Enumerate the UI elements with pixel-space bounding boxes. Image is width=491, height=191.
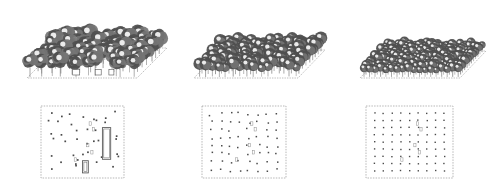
isometric-view-b xyxy=(164,0,328,95)
plan-scene xyxy=(328,95,491,191)
panel-right xyxy=(328,0,491,191)
plan-view-b xyxy=(164,95,328,191)
plan-scene xyxy=(164,95,328,191)
isometric-view-a xyxy=(0,0,164,95)
tree-layer xyxy=(193,32,327,78)
plan-view-c xyxy=(328,95,491,191)
isometric-view-c xyxy=(328,0,491,95)
canopy-scene xyxy=(164,0,328,95)
canopy-scene xyxy=(328,0,491,95)
plan-scene xyxy=(0,95,164,191)
plan-view-a xyxy=(0,95,164,191)
panel-left xyxy=(0,0,164,191)
figure-canvas: Urban forest density scenarios xyxy=(0,0,491,191)
plan-boundary xyxy=(202,106,286,178)
panel-center xyxy=(164,0,328,191)
canopy-scene xyxy=(0,0,164,95)
